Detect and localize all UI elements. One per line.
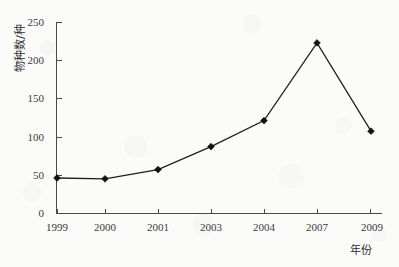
x-tick-label-2007: 2007 <box>306 221 329 233</box>
x-tick-label-2004: 2004 <box>253 221 276 233</box>
species-count-line-chart: 250 200 150 100 50 0 <box>0 0 399 267</box>
y-tick-label-200: 200 <box>28 54 45 66</box>
data-point-2000[interactable] <box>102 175 109 182</box>
data-point-2003[interactable] <box>208 143 215 150</box>
series-markers <box>54 40 375 183</box>
data-point-2009[interactable] <box>368 128 375 135</box>
x-tick-label-2001: 2001 <box>147 221 169 233</box>
y-tick-label-50: 50 <box>33 169 45 181</box>
y-axis-tick-labels: 250 200 150 100 50 0 <box>28 16 45 219</box>
x-tick-label-1999: 1999 <box>46 221 69 233</box>
x-tick-label-2009: 2009 <box>361 221 384 233</box>
chart-figure: 250 200 150 100 50 0 <box>0 0 399 267</box>
y-axis-title: 物种数/种 <box>13 24 27 72</box>
x-axis-tick-labels: 1999 2000 2001 2003 2004 2007 2009 <box>46 221 384 233</box>
species-count-series-line <box>57 43 371 179</box>
x-tick-label-2003: 2003 <box>200 221 223 233</box>
x-axis-title: 年份 <box>350 243 372 257</box>
y-tick-label-100: 100 <box>28 131 45 143</box>
y-tick-label-150: 150 <box>28 92 45 104</box>
y-axis-tick-marks <box>57 23 62 214</box>
x-tick-label-2000: 2000 <box>94 221 117 233</box>
y-tick-label-250: 250 <box>28 16 45 28</box>
x-axis-tick-marks <box>58 209 371 214</box>
y-tick-label-0: 0 <box>39 207 45 219</box>
data-point-2001[interactable] <box>155 166 162 173</box>
